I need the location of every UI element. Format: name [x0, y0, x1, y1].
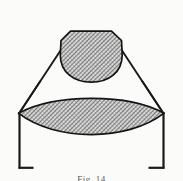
figure-caption: Fig. 14: [0, 175, 183, 181]
upper-hatched-dome: [60, 31, 122, 82]
technical-drawing: [0, 0, 183, 181]
figure-container: Fig. 14: [0, 0, 183, 181]
figure-background: [0, 0, 183, 181]
